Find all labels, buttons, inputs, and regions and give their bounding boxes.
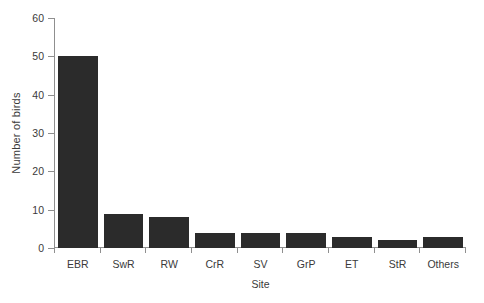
x-axis-tick-label: SV xyxy=(238,256,284,272)
bar xyxy=(286,233,326,248)
x-axis-labels: EBRSwRRWCrRSVGrPETStROthers xyxy=(55,256,466,272)
y-axis-tick-label: 60 xyxy=(32,10,44,26)
bar xyxy=(332,237,372,249)
x-axis-title: Site xyxy=(55,277,466,291)
bar xyxy=(195,233,235,248)
bar xyxy=(241,233,281,248)
y-axis-tick: 20 xyxy=(48,171,54,172)
x-axis-tick xyxy=(374,248,375,253)
x-axis-tick-label: EBR xyxy=(55,256,101,272)
bar xyxy=(378,240,418,248)
y-axis-tick: 60 xyxy=(48,18,54,19)
x-axis-tick xyxy=(100,248,101,253)
x-axis-tick-label: RW xyxy=(146,256,192,272)
x-axis-tick xyxy=(191,248,192,253)
x-axis-tick xyxy=(328,248,329,253)
x-axis-tick xyxy=(145,248,146,253)
bar xyxy=(423,237,463,249)
y-axis-tick: 50 xyxy=(48,56,54,57)
plot-area: 0102030405060 xyxy=(54,18,466,248)
x-axis-tick-label: ET xyxy=(329,256,375,272)
bar-chart: Number of birds 0102030405060 EBRSwRRWCr… xyxy=(0,0,484,303)
bar xyxy=(104,214,144,249)
y-axis-tick: 10 xyxy=(48,210,54,211)
x-axis-tick-label: Others xyxy=(420,256,466,272)
bar xyxy=(149,217,189,248)
y-axis-tick: 40 xyxy=(48,95,54,96)
y-axis-tick: 30 xyxy=(48,133,54,134)
y-axis-title: Number of birds xyxy=(8,18,24,248)
x-axis-tick xyxy=(54,248,55,253)
y-axis-tick-label: 30 xyxy=(32,125,44,141)
y-axis-tick-label: 10 xyxy=(32,202,44,218)
x-axis-tick-label: SwR xyxy=(101,256,147,272)
y-axis-tick-label: 50 xyxy=(32,48,44,64)
x-axis-tick xyxy=(465,248,466,253)
y-axis-tick-label: 0 xyxy=(38,240,44,256)
x-axis-tick xyxy=(419,248,420,253)
x-axis-tick-label: CrR xyxy=(192,256,238,272)
y-axis-tick-label: 40 xyxy=(32,87,44,103)
x-axis-tick-label: GrP xyxy=(283,256,329,272)
x-axis-tick-label: StR xyxy=(375,256,421,272)
bar-series xyxy=(55,18,466,248)
bar xyxy=(58,56,98,248)
x-axis-tick xyxy=(282,248,283,253)
x-axis-tick xyxy=(237,248,238,253)
y-axis-tick-label: 20 xyxy=(32,163,44,179)
